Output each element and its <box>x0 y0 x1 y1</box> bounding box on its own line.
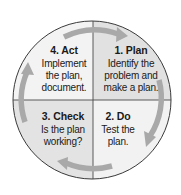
quadrant-check-line-2: working? <box>35 136 91 148</box>
quadrant-do: 2. Do Test the plan. <box>96 111 140 148</box>
quadrant-act-title: 4. Act <box>36 45 92 56</box>
quadrant-plan-line-2: problem and <box>98 70 164 82</box>
quadrant-check-line-1: Is the plan <box>35 124 91 136</box>
quadrant-plan: 1. Plan Identify the problem and make a … <box>98 45 164 94</box>
quadrant-act: 4. Act Implement the plan, document. <box>36 45 92 94</box>
quadrant-plan-line-3: make a plan. <box>98 82 164 94</box>
quadrant-do-title: 2. Do <box>96 111 140 122</box>
quadrant-plan-line-1: Identify the <box>98 58 164 70</box>
quadrant-do-line-2: plan. <box>96 136 140 148</box>
quadrant-act-line-2: the plan, <box>36 70 92 82</box>
quadrant-do-line-1: Test the <box>96 124 140 136</box>
quadrant-act-line-1: Implement <box>36 58 92 70</box>
quadrant-plan-title: 1. Plan <box>98 45 164 56</box>
quadrant-check: 3. Check Is the plan working? <box>35 111 91 148</box>
quadrant-act-line-3: document. <box>36 82 92 94</box>
pdca-cycle-diagram <box>0 0 181 195</box>
quadrant-check-title: 3. Check <box>35 111 91 122</box>
